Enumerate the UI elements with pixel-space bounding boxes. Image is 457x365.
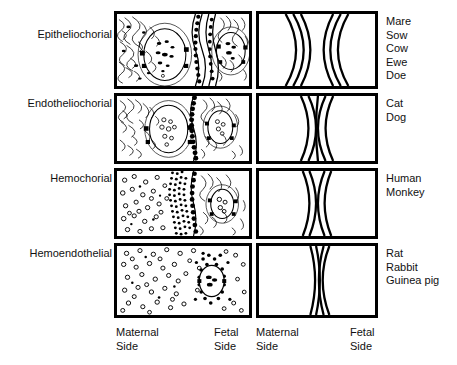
axis-line-2: Side: [214, 340, 238, 354]
species-item: Mare: [386, 15, 411, 29]
axis-label-schematic-fetal: Fetal Side: [350, 326, 374, 353]
axis-line-1: Maternal: [116, 326, 159, 340]
hemoendothelial-schematic: [256, 243, 378, 318]
axis-label-micrograph-fetal: Fetal Side: [214, 326, 238, 353]
row-label-hemoendothelial: Hemoendothelial: [0, 247, 112, 260]
row-label-endotheliochorial: Endotheliochorial: [0, 97, 112, 110]
species-item: Cat: [386, 97, 406, 111]
species-list-hemoendothelial: Rat Rabbit Guinea pig: [386, 247, 439, 288]
species-list-epitheliochorial: Mare Sow Cow Ewe Doe: [386, 15, 411, 83]
axis-label-micrograph-maternal: Maternal Side: [116, 326, 159, 353]
species-item: Doe: [386, 69, 411, 83]
species-item: Rat: [386, 247, 439, 261]
epitheliochorial-schematic: [256, 11, 378, 89]
axis-line-1: Fetal: [214, 326, 238, 340]
species-item: Ewe: [386, 56, 411, 70]
hemochorial-micrograph: [114, 168, 252, 239]
placenta-types-figure: Epitheliochorial: [0, 0, 457, 365]
row-label-epitheliochorial: Epitheliochorial: [0, 28, 112, 41]
axis-line-2: Side: [256, 340, 299, 354]
axis-line-1: Fetal: [350, 326, 374, 340]
species-item: Guinea pig: [386, 274, 439, 288]
axis-line-2: Side: [350, 340, 374, 354]
hemochorial-schematic: [256, 168, 378, 239]
epitheliochorial-micrograph: [114, 11, 252, 89]
species-item: Human: [386, 172, 425, 186]
endotheliochorial-micrograph: [114, 93, 252, 164]
species-item: Cow: [386, 42, 411, 56]
hemoendothelial-micrograph: [114, 243, 252, 318]
axis-line-1: Maternal: [256, 326, 299, 340]
axis-line-2: Side: [116, 340, 159, 354]
species-item: Dog: [386, 111, 406, 125]
species-list-hemochorial: Human Monkey: [386, 172, 425, 199]
axis-label-schematic-maternal: Maternal Side: [256, 326, 299, 353]
species-item: Rabbit: [386, 261, 439, 275]
row-label-hemochorial: Hemochorial: [0, 172, 112, 185]
species-list-endotheliochorial: Cat Dog: [386, 97, 406, 124]
species-item: Monkey: [386, 186, 425, 200]
endotheliochorial-schematic: [256, 93, 378, 164]
species-item: Sow: [386, 29, 411, 43]
